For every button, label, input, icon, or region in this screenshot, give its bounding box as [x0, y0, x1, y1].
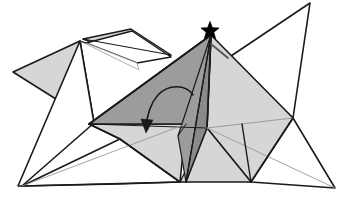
origami-fold-figure: [0, 0, 346, 197]
figure-canvas: [0, 0, 346, 197]
